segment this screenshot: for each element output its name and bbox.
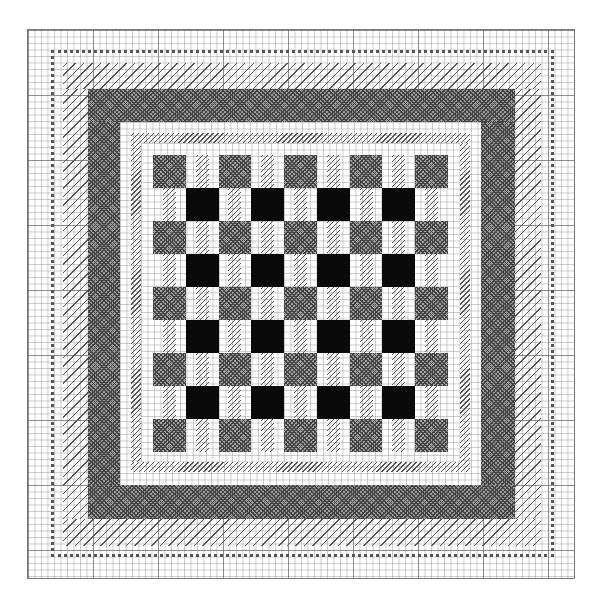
gray-square bbox=[153, 419, 186, 452]
black-square bbox=[317, 188, 350, 221]
hatched-stripe bbox=[294, 254, 307, 287]
black-square bbox=[251, 254, 284, 287]
gray-square bbox=[415, 353, 448, 386]
gray-square bbox=[284, 155, 317, 188]
hatched-stripe bbox=[261, 287, 274, 320]
hatched-stripe bbox=[360, 188, 373, 221]
gray-square bbox=[350, 353, 383, 386]
black-square bbox=[382, 320, 415, 353]
hatched-stripe bbox=[228, 188, 241, 221]
hatched-stripe bbox=[360, 254, 373, 287]
hatched-stripe bbox=[425, 188, 438, 221]
hatched-stripe bbox=[228, 386, 241, 419]
hatched-stripe bbox=[392, 155, 405, 188]
gray-square bbox=[350, 155, 383, 188]
hatched-stripe bbox=[425, 254, 438, 287]
gray-square bbox=[284, 353, 317, 386]
black-square bbox=[317, 386, 350, 419]
dense-crosshatch-border-top bbox=[88, 89, 515, 122]
hatched-stripe bbox=[196, 221, 209, 254]
black-square bbox=[186, 386, 219, 419]
hatched-stripe bbox=[327, 419, 340, 452]
hatched-stripe bbox=[425, 320, 438, 353]
hatched-stripe bbox=[392, 353, 405, 386]
hatched-stripe bbox=[196, 287, 209, 320]
hatched-stripe bbox=[196, 353, 209, 386]
hatched-stripe bbox=[327, 287, 340, 320]
hatched-stripe bbox=[261, 155, 274, 188]
hatched-stripe bbox=[196, 155, 209, 188]
fine-diagonal-border-bottom bbox=[131, 462, 470, 472]
hatched-stripe bbox=[261, 221, 274, 254]
hatched-stripe bbox=[360, 386, 373, 419]
hatched-stripe bbox=[261, 419, 274, 452]
hatched-stripe bbox=[163, 254, 176, 287]
gray-square bbox=[153, 221, 186, 254]
hatched-stripe bbox=[163, 320, 176, 353]
hatched-stripe bbox=[228, 320, 241, 353]
black-square bbox=[186, 188, 219, 221]
hatched-stripe bbox=[228, 254, 241, 287]
fine-diagonal-border-right bbox=[460, 143, 470, 462]
hatched-stripe bbox=[294, 386, 307, 419]
hatched-stripe bbox=[425, 386, 438, 419]
hatched-stripe bbox=[327, 221, 340, 254]
gray-square bbox=[284, 419, 317, 452]
sparse-diagonal-border-bottom bbox=[63, 519, 541, 546]
gray-square bbox=[284, 287, 317, 320]
hatched-stripe bbox=[392, 221, 405, 254]
black-square bbox=[251, 188, 284, 221]
checkerboard bbox=[153, 155, 448, 452]
black-square bbox=[317, 320, 350, 353]
black-square bbox=[251, 320, 284, 353]
sparse-diagonal-border-right bbox=[515, 89, 541, 519]
gray-square bbox=[153, 287, 186, 320]
hatched-stripe bbox=[261, 353, 274, 386]
hatched-stripe bbox=[294, 320, 307, 353]
hatched-stripe bbox=[392, 287, 405, 320]
gray-square bbox=[284, 221, 317, 254]
black-square bbox=[186, 320, 219, 353]
fine-diagonal-border-top bbox=[131, 133, 470, 143]
gray-square bbox=[153, 155, 186, 188]
sparse-diagonal-border-left bbox=[63, 89, 88, 519]
gray-square bbox=[415, 221, 448, 254]
gray-square bbox=[350, 221, 383, 254]
gray-square bbox=[219, 155, 252, 188]
gray-square bbox=[219, 419, 252, 452]
gray-square bbox=[153, 353, 186, 386]
black-square bbox=[251, 386, 284, 419]
black-square bbox=[382, 188, 415, 221]
hatched-stripe bbox=[196, 419, 209, 452]
black-square bbox=[382, 254, 415, 287]
gray-square bbox=[415, 419, 448, 452]
sparse-diagonal-border-top bbox=[63, 63, 541, 89]
gray-square bbox=[350, 419, 383, 452]
hatched-stripe bbox=[294, 188, 307, 221]
hatched-stripe bbox=[392, 419, 405, 452]
gray-square bbox=[219, 221, 252, 254]
gray-square bbox=[350, 287, 383, 320]
black-square bbox=[382, 386, 415, 419]
gray-square bbox=[415, 155, 448, 188]
hatched-stripe bbox=[327, 155, 340, 188]
hatched-stripe bbox=[360, 320, 373, 353]
gray-square bbox=[219, 287, 252, 320]
black-square bbox=[186, 254, 219, 287]
hatched-stripe bbox=[327, 353, 340, 386]
hatched-stripe bbox=[163, 386, 176, 419]
fine-diagonal-border-left bbox=[131, 143, 141, 462]
hatched-stripe bbox=[163, 188, 176, 221]
black-square bbox=[317, 254, 350, 287]
gray-square bbox=[415, 287, 448, 320]
dense-crosshatch-border-right bbox=[481, 122, 515, 485]
gray-square bbox=[219, 353, 252, 386]
dense-crosshatch-border-left bbox=[88, 122, 120, 485]
dense-crosshatch-border-bottom bbox=[88, 485, 515, 519]
